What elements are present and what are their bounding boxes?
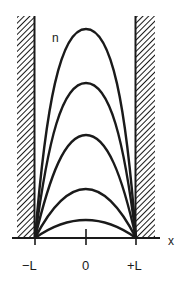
- left-wall: [17, 16, 35, 238]
- mode-curves: [35, 29, 136, 238]
- left-boundary-label: −L: [22, 259, 37, 272]
- mode-curve-5: [35, 29, 136, 238]
- x-axis-label: x: [168, 235, 174, 247]
- right-wall: [136, 16, 156, 238]
- well-mode-diagram: n x −L 0 +L: [0, 0, 186, 281]
- y-axis-label: n: [52, 32, 59, 44]
- right-boundary-label: +L: [127, 259, 142, 272]
- center-label: 0: [82, 259, 89, 272]
- diagram-canvas: [0, 0, 186, 281]
